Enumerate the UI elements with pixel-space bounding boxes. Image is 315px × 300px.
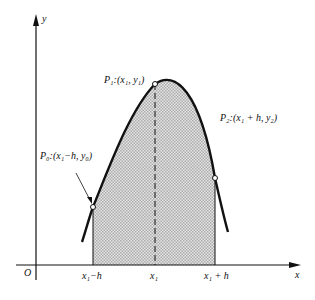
x-axis-label: x	[295, 270, 299, 280]
y-axis-arrow-icon	[33, 14, 39, 26]
origin-label: O	[24, 268, 31, 278]
point-p1-marker	[153, 82, 158, 87]
tick-label-x1-plus-h: x₁ + h	[204, 271, 229, 281]
tick-label-x1: x₁	[150, 271, 158, 281]
point-p2-marker	[213, 176, 218, 181]
y-axis-label: y	[42, 14, 46, 24]
x-axis-arrow-icon	[289, 262, 301, 268]
point-p0-marker	[91, 205, 96, 210]
p0-leader-arrow-icon	[87, 197, 92, 204]
point-p1-label: P₁:(x₁, y₁)	[104, 75, 144, 85]
point-p0-label: P₀:(x₁−h, y₀)	[40, 151, 92, 161]
point-p2-label: P₂:(x₁ + h, y₂)	[220, 113, 277, 123]
tick-label-x1-minus-h: x₁−h	[82, 271, 102, 281]
p0-leader-line	[76, 173, 90, 200]
